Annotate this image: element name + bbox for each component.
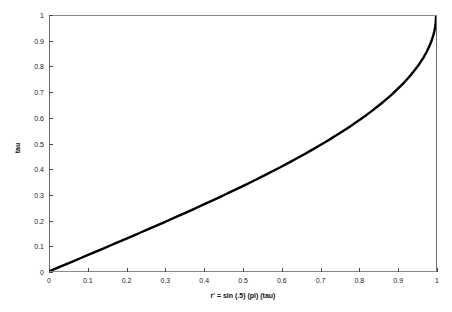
x-tick-mark — [204, 268, 205, 272]
y-tick-mark — [49, 246, 53, 247]
plot-area — [49, 15, 437, 272]
y-tick-label: 0 — [40, 268, 44, 277]
x-tick-label: 0.8 — [355, 276, 365, 285]
y-tick-label: 0.5 — [34, 139, 44, 148]
x-tick-label: 0 — [47, 276, 51, 285]
x-tick-mark — [88, 268, 89, 272]
x-tick-label: 0.9 — [393, 276, 403, 285]
x-tick-mark — [243, 268, 244, 272]
y-tick-mark — [49, 144, 53, 145]
y-tick-mark — [49, 41, 53, 42]
y-tick-mark — [49, 169, 53, 170]
x-tick-label: 0.1 — [83, 276, 93, 285]
y-tick-label: 1 — [40, 11, 44, 20]
y-tick-label: 0.9 — [34, 36, 44, 45]
x-tick-mark — [359, 268, 360, 272]
x-tick-label: 0.4 — [199, 276, 209, 285]
y-tick-label: 0.6 — [34, 113, 44, 122]
y-tick-label: 0.7 — [34, 88, 44, 97]
x-tick-label: 0.2 — [122, 276, 132, 285]
y-tick-mark — [49, 15, 53, 16]
y-tick-label: 0.2 — [34, 216, 44, 225]
y-axis-label: tau — [14, 143, 21, 154]
x-tick-mark — [127, 268, 128, 272]
y-tick-label: 0.4 — [34, 165, 44, 174]
x-tick-mark — [282, 268, 283, 272]
y-tick-mark — [49, 195, 53, 196]
y-tick-label: 0.1 — [34, 242, 44, 251]
x-tick-mark — [398, 268, 399, 272]
chart-figure: 00.10.20.30.40.50.60.70.80.91 00.10.20.3… — [0, 0, 452, 312]
x-tick-label: 1 — [435, 276, 439, 285]
x-tick-label: 0.5 — [238, 276, 248, 285]
y-tick-mark — [49, 92, 53, 93]
x-tick-mark — [165, 268, 166, 272]
x-tick-label: 0.3 — [161, 276, 171, 285]
data-series-line — [50, 16, 436, 271]
x-tick-mark — [321, 268, 322, 272]
x-tick-label: 0.7 — [316, 276, 326, 285]
x-tick-mark — [437, 268, 438, 272]
x-tick-label: 0.6 — [277, 276, 287, 285]
y-tick-mark — [49, 66, 53, 67]
y-tick-label: 0.8 — [34, 62, 44, 71]
y-tick-mark — [49, 272, 53, 273]
curve-svg — [50, 16, 436, 271]
x-axis-label: r' = sin (.5) (pi) (tau) — [211, 292, 276, 299]
y-tick-mark — [49, 221, 53, 222]
y-tick-label: 0.3 — [34, 190, 44, 199]
y-tick-mark — [49, 118, 53, 119]
